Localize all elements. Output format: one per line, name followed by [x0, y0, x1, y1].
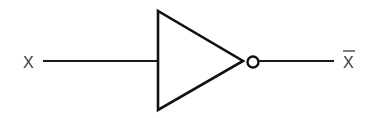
inverter-triangle-icon	[158, 11, 243, 110]
output-label-group: X	[343, 51, 355, 71]
inversion-bubble-icon	[248, 57, 259, 68]
output-label: X	[343, 54, 354, 71]
not-gate-diagram: X X	[0, 0, 374, 118]
input-label: X	[23, 54, 34, 71]
